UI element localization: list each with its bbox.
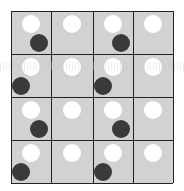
- grid-line-horizontal: [11, 183, 173, 184]
- white-dot-icon: [144, 101, 162, 119]
- grid-line-horizontal: [11, 54, 173, 55]
- white-dot-icon: [104, 144, 122, 162]
- dark-dot-icon: [94, 77, 112, 95]
- ghost-scan-band: [0, 62, 184, 70]
- white-dot-icon: [144, 15, 162, 33]
- dark-dot-icon: [94, 163, 112, 181]
- dark-dot-icon: [112, 120, 130, 138]
- dark-dot-icon: [30, 120, 48, 138]
- dark-dot-icon: [12, 77, 30, 95]
- dark-dot-icon: [30, 34, 48, 52]
- white-dot-icon: [104, 15, 122, 33]
- white-dot-icon: [22, 101, 40, 119]
- grid-line-horizontal: [11, 140, 173, 141]
- white-dot-icon: [63, 144, 81, 162]
- grid-line-horizontal: [11, 11, 173, 12]
- dark-dot-icon: [12, 163, 30, 181]
- white-dot-icon: [63, 101, 81, 119]
- white-dot-icon: [63, 15, 81, 33]
- white-dot-icon: [104, 101, 122, 119]
- white-dot-icon: [22, 144, 40, 162]
- dark-dot-icon: [112, 34, 130, 52]
- white-dot-icon: [22, 15, 40, 33]
- grid-line-vertical: [173, 11, 174, 183]
- grid-line-horizontal: [11, 97, 173, 98]
- white-dot-icon: [144, 144, 162, 162]
